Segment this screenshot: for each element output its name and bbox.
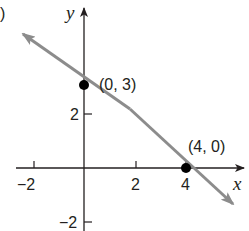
x-tick-label-4: 4 — [181, 176, 190, 193]
part-label: ) — [0, 5, 5, 22]
coordinate-graph: ) −2 2 4 2 −2 y x (0, 3) (4, 0) — [0, 0, 249, 231]
x-tick-label-2: 2 — [131, 176, 140, 193]
point-label-4-0: (4, 0) — [188, 138, 225, 155]
y-tick-label-2: 2 — [70, 106, 79, 123]
y-axis-label: y — [64, 2, 75, 23]
y-tick-label-neg2: −2 — [59, 214, 77, 231]
point-label-0-3: (0, 3) — [99, 76, 136, 93]
line-arrow-upper — [23, 34, 130, 109]
x-tick-label-neg2: −2 — [17, 176, 35, 193]
x-axis-label: x — [232, 173, 242, 194]
point-4-0 — [181, 163, 191, 173]
point-0-3 — [79, 80, 89, 90]
